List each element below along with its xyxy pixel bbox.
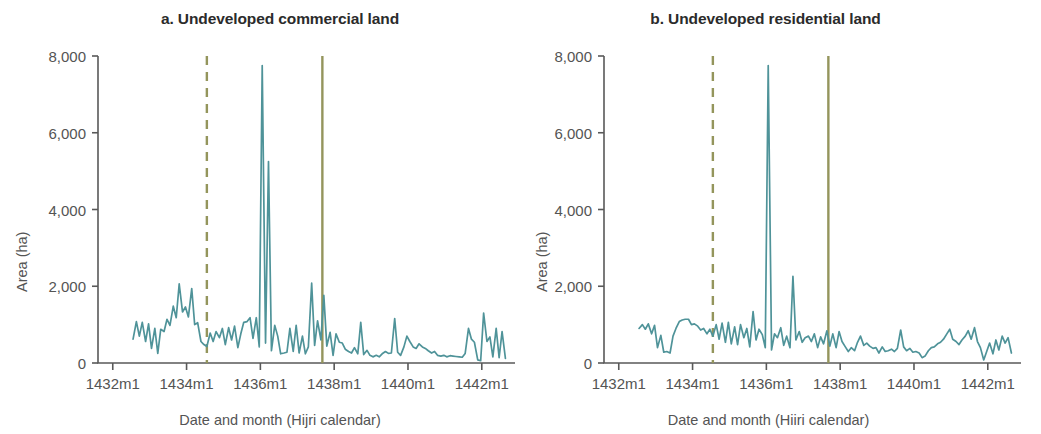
panel-b-svg xyxy=(604,56,1021,363)
y-axis-tick-label: 6,000 xyxy=(48,124,86,141)
x-axis-tick-label: 1434m1 xyxy=(159,375,213,392)
panel-a-title: a. Undeveloped commercial land xyxy=(0,10,520,28)
y-axis-tick-label: 0 xyxy=(584,355,592,372)
x-axis-tick-label: 1438m1 xyxy=(307,375,361,392)
x-axis-tick-label: 1436m1 xyxy=(233,375,287,392)
y-axis-tick-label: 8,000 xyxy=(48,48,86,65)
panel-b-y-axis-label: Area (ha) xyxy=(534,232,550,292)
x-axis-tick-label: 1440m1 xyxy=(887,375,941,392)
x-axis-tick-label: 1434m1 xyxy=(665,375,719,392)
y-axis-tick-label: 4,000 xyxy=(48,201,86,218)
panel-b-x-axis-label: Date and month (Hiiri calendar) xyxy=(520,412,1041,428)
y-axis-tick-label: 2,000 xyxy=(554,278,592,295)
axis-spine xyxy=(98,56,515,363)
y-axis-tick-label: 4,000 xyxy=(554,201,592,218)
x-axis-tick-label: 1432m1 xyxy=(86,375,140,392)
x-axis-tick-label: 1442m1 xyxy=(961,375,1015,392)
panel-a-y-axis-label: Area (ha) xyxy=(14,232,30,292)
y-axis-tick-label: 6,000 xyxy=(554,124,592,141)
x-axis-tick-label: 1440m1 xyxy=(381,375,435,392)
panel-a-undeveloped-commercial-land: a. Undeveloped commercial land Area (ha)… xyxy=(0,0,520,434)
y-axis-tick-label: 2,000 xyxy=(48,278,86,295)
data-series-line xyxy=(133,66,505,361)
panel-a-svg xyxy=(98,56,515,363)
panel-a-x-axis-label: Date and month (Hijri calendar) xyxy=(0,412,520,428)
y-axis-tick-label: 0 xyxy=(78,355,86,372)
panel-b-plot-area: 02,0004,0006,0008,0001432m11434m11436m11… xyxy=(604,56,1021,363)
x-axis-tick-label: 1438m1 xyxy=(813,375,867,392)
panel-a-plot-area: 02,0004,0006,0008,0001432m11434m11436m11… xyxy=(98,56,515,363)
axis-spine xyxy=(604,56,1021,363)
y-axis-tick-label: 8,000 xyxy=(554,48,592,65)
figure-two-panel-line-charts: a. Undeveloped commercial land Area (ha)… xyxy=(0,0,1041,434)
x-axis-tick-label: 1432m1 xyxy=(592,375,646,392)
x-axis-tick-label: 1436m1 xyxy=(739,375,793,392)
x-axis-tick-label: 1442m1 xyxy=(455,375,509,392)
data-series-line xyxy=(639,66,1011,360)
panel-b-title: b. Undeveloped residential land xyxy=(520,10,1041,28)
panel-b-undeveloped-residential-land: b. Undeveloped residential land Area (ha… xyxy=(520,0,1041,434)
